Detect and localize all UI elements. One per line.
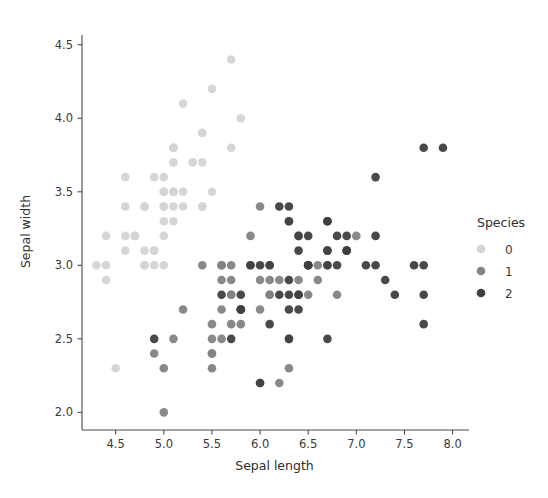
data-point [323,335,332,344]
data-point [256,379,265,388]
data-point [275,276,284,285]
data-point [285,276,294,285]
data-point [246,232,255,241]
data-point [333,290,342,299]
legend-label-1[interactable]: 1 [505,265,513,279]
data-point [265,290,274,299]
data-point [198,129,207,138]
data-point [160,364,169,373]
legend-swatch-2[interactable] [477,289,486,298]
data-point [342,246,351,255]
data-point [333,261,342,270]
data-point [208,335,217,344]
data-point [208,188,217,197]
data-point [121,173,130,182]
data-point [256,261,265,270]
x-tick-label: 5.0 [155,437,173,451]
data-point [246,261,255,270]
data-point [381,276,390,285]
data-point [160,217,169,226]
data-point [150,246,159,255]
data-point [294,232,303,241]
data-point [102,261,111,270]
legend-label-0[interactable]: 0 [505,243,513,257]
data-point [304,261,313,270]
data-point [169,188,178,197]
data-point [131,232,140,241]
data-point [121,202,130,211]
data-point [160,408,169,417]
data-point [265,276,274,285]
legend-label-2[interactable]: 2 [505,287,513,301]
data-point [410,261,419,270]
data-point [169,335,178,344]
data-point [169,158,178,167]
data-point [121,246,130,255]
data-point [160,188,169,197]
data-point [227,55,236,64]
data-point [419,290,428,299]
data-point [362,261,371,270]
data-point [285,202,294,211]
data-point [275,290,284,299]
data-point [217,305,226,314]
data-point [160,173,169,182]
data-point [391,290,400,299]
data-point [179,99,188,108]
y-tick-label: 3.0 [55,258,73,272]
data-point [275,202,284,211]
data-point [208,85,217,94]
data-point [371,173,380,182]
data-point [111,364,120,373]
data-point [150,261,159,270]
data-point [342,232,351,241]
data-point [323,217,332,226]
data-point [237,290,246,299]
data-point [419,261,428,270]
legend-swatch-0[interactable] [477,245,486,254]
data-point [140,261,149,270]
data-point [179,202,188,211]
legend-swatch-1[interactable] [477,267,486,276]
data-point [150,349,159,358]
x-tick-label: 4.5 [107,437,125,451]
data-point [256,202,265,211]
data-point [256,305,265,314]
x-tick-label: 7.0 [347,437,365,451]
data-point [323,261,332,270]
data-point [227,335,236,344]
data-point [227,290,236,299]
data-point [352,232,361,241]
data-point [294,305,303,314]
data-point [323,246,332,255]
y-tick-label: 2.0 [55,405,73,419]
data-point [371,261,380,270]
data-point [333,232,342,241]
x-tick-label: 6.0 [251,437,269,451]
y-axis-title: Sepal width [18,195,33,268]
data-point [160,261,169,270]
data-point [304,232,313,241]
data-point [265,320,274,329]
data-point [265,261,274,270]
data-point [371,232,380,241]
data-point [102,232,111,241]
data-point [208,349,217,358]
data-point [160,202,169,211]
data-point [169,217,178,226]
data-point [208,364,217,373]
data-point [275,379,284,388]
y-tick-label: 3.5 [55,185,73,199]
scatter-plot-figure: 4.55.05.56.06.57.07.58.0 2.02.53.03.54.0… [0,0,548,498]
data-point [285,335,294,344]
data-point [198,158,207,167]
data-point [294,276,303,285]
data-point [285,217,294,226]
data-point [439,143,448,152]
data-point [217,276,226,285]
data-point [198,202,207,211]
data-point [237,320,246,329]
data-point [419,143,428,152]
data-point [160,232,169,241]
data-point [227,320,236,329]
